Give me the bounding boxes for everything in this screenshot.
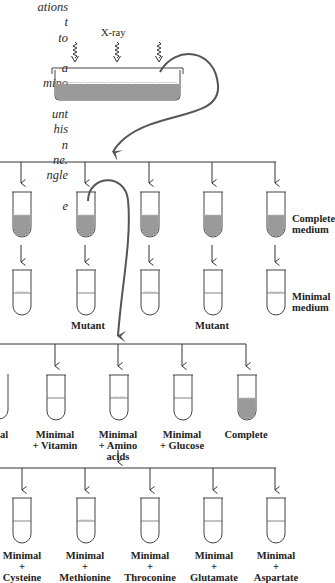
tube-complete: [203, 192, 223, 237]
tube-minimal-cysteine: [12, 498, 32, 543]
tube-minimal-amino-acids: [109, 375, 129, 420]
tube-minimal-glutamate: [203, 498, 223, 543]
transfer-curve-arrow: [113, 54, 218, 152]
row2-label-complete: Complete: [221, 429, 271, 440]
tube-minimal-growth: [266, 270, 286, 315]
row2-label-minimal: al: [0, 429, 8, 440]
tube-complete: [12, 192, 32, 237]
tube-minimal-glucose: [173, 375, 193, 420]
tube-complete: [76, 192, 96, 237]
row3-label-glutamate: Minimal + Glutamate: [185, 550, 243, 583]
mutant-label: Mutant: [70, 320, 106, 331]
petri-dish: [52, 68, 183, 100]
tube-minimal-vitamin: [46, 375, 66, 420]
xray-arrow-icon: [72, 42, 79, 62]
xray-arrow-icon: [114, 42, 121, 62]
row3-label-methionine: Minimal + Methionine: [56, 550, 114, 583]
xray-arrows: [72, 42, 163, 62]
tube-minimal-growth: [12, 270, 32, 315]
tube-minimal-cut: [0, 374, 8, 419]
row2-label-glucose: Minimal + Glucose: [157, 429, 207, 451]
row3-tubes: [12, 498, 286, 543]
mutant-transfer-curve-arrow: [88, 180, 129, 336]
tube-minimal-mutant: [76, 270, 96, 315]
tube-complete: [140, 192, 160, 237]
row1-down-arrows: [21, 245, 275, 262]
minimal-medium-label: Minimal medium: [292, 291, 331, 313]
minimal-medium-tubes: [12, 270, 286, 315]
row2-label-vitamin: Minimal + Vitamin: [30, 429, 80, 451]
xray-arrow-icon: [156, 42, 163, 62]
tube-complete: [237, 375, 257, 420]
complete-medium-tubes: [12, 192, 286, 237]
tube-minimal-methionine: [76, 498, 96, 543]
tube-complete: [266, 192, 286, 237]
row2-label-amino-acids: Minimal + Amino acids: [93, 429, 143, 462]
row3-label-cysteine: Minimal + Cysteine: [0, 550, 48, 583]
complete-medium-label: Complete medium: [292, 213, 335, 235]
xray-label: X-ray: [101, 27, 126, 38]
tube-minimal-aspartate: [266, 498, 286, 543]
tube-minimal-throconine: [140, 498, 160, 543]
row3-label-throconine: Minimal + Throconine: [120, 550, 180, 583]
row1-branch-lines: [0, 162, 276, 183]
mutant-label: Mutant: [194, 320, 230, 331]
tube-minimal-growth: [140, 270, 160, 315]
row2-branch-lines: [0, 344, 246, 366]
row3-label-aspartate: Minimal + Aspartate: [247, 550, 305, 583]
tube-minimal-mutant: [203, 270, 223, 315]
row2-tubes: [0, 374, 257, 420]
row3-branch-lines: [0, 468, 276, 490]
